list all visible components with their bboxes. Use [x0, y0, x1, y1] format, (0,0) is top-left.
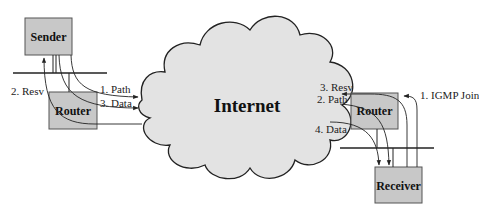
flow-igmp-1 — [404, 96, 417, 167]
rsvp-diagram: Internet Sender Router 1. Path 3. Data 2… — [0, 0, 479, 215]
label-resv-3: 3. Resv — [320, 81, 354, 93]
receiver-router-node: Router — [351, 93, 398, 129]
label-path-1: 1. Path — [100, 83, 131, 95]
label-resv-2: 2. Resv — [11, 85, 45, 97]
sender-label: Sender — [31, 30, 68, 44]
sender-node: Sender — [25, 18, 72, 55]
receiver-label: Receiver — [376, 179, 421, 193]
label-path-2: 2. Path — [317, 93, 348, 105]
label-igmp-join-1: 1. IGMP Join — [420, 89, 479, 101]
internet-label: Internet — [214, 95, 281, 116]
label-data-4: 4. Data — [315, 123, 347, 135]
label-data-3: 3. Data — [100, 97, 132, 109]
sender-router-label: Router — [55, 104, 92, 118]
receiver-node: Receiver — [375, 167, 422, 203]
